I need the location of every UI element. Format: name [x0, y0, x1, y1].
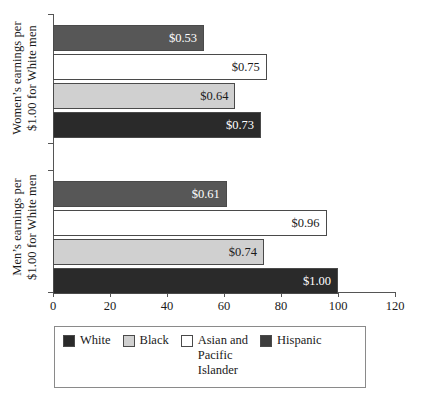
- x-axis-tick: [395, 292, 396, 297]
- bar-value-label: $0.53: [169, 32, 197, 45]
- y-axis-label-women: Women’s earnings per $1.00 for White men: [10, 10, 40, 146]
- y-axis-label-women-line2: $1.00 for White men: [25, 10, 40, 146]
- legend-item-hispanic[interactable]: Hispanic: [260, 333, 321, 348]
- bar-value-label: $0.61: [192, 188, 220, 201]
- x-axis-tick-label: 40: [147, 299, 187, 314]
- x-axis-tick-label: 0: [33, 299, 73, 314]
- x-axis-tick-label: 60: [204, 299, 244, 314]
- legend-item-asian-pacific-islander[interactable]: Asian and Pacific Islander: [181, 333, 248, 378]
- legend-swatch-black-icon: [123, 335, 135, 347]
- y-axis-label-men-line1: Men’s earnings per: [10, 164, 25, 290]
- bar-value-label: $0.64: [200, 90, 228, 103]
- bar-men-hispanic[interactable]: $0.61: [53, 181, 227, 207]
- x-axis-tick-label: 20: [90, 299, 130, 314]
- category-axis-tick: [48, 170, 53, 171]
- x-axis-tick-label: 80: [261, 299, 301, 314]
- bar-women-black[interactable]: $0.64: [53, 83, 235, 109]
- legend-label-hispanic: Hispanic: [277, 333, 321, 348]
- bar-value-label: $0.73: [226, 119, 254, 132]
- y-axis-label-men: Men’s earnings per $1.00 for White men: [10, 164, 40, 290]
- bar-men-white[interactable]: $1.00: [53, 268, 338, 294]
- bar-value-label: $1.00: [303, 275, 331, 288]
- legend-swatch-asian-pacific-islander-icon: [181, 335, 193, 347]
- bar-women-hispanic[interactable]: $0.53: [53, 25, 204, 51]
- chart-legend: White Black Asian and Pacific Islander H…: [54, 326, 366, 388]
- x-axis-tick-label: 120: [375, 299, 415, 314]
- bar-chart: Women’s earnings per $1.00 for White men…: [0, 0, 422, 399]
- bar-women-asian-pacific-islander[interactable]: $0.75: [53, 54, 267, 80]
- legend-swatch-white-icon: [63, 335, 75, 347]
- bar-men-black[interactable]: $0.74: [53, 239, 264, 265]
- bar-value-label: $0.75: [232, 61, 260, 74]
- legend-label-white: White: [80, 333, 111, 348]
- legend-swatch-hispanic-icon: [260, 335, 272, 347]
- x-axis-tick-label: 100: [318, 299, 358, 314]
- y-axis-label-women-line1: Women’s earnings per: [10, 10, 25, 146]
- legend-label-black: Black: [140, 333, 169, 348]
- category-axis-tick: [48, 143, 53, 144]
- legend-item-white[interactable]: White: [63, 333, 111, 348]
- x-axis-tick: [338, 292, 339, 297]
- bar-value-label: $0.74: [229, 246, 257, 259]
- legend-label-asian-pacific-islander: Asian and Pacific Islander: [198, 333, 248, 378]
- bar-men-asian-pacific-islander[interactable]: $0.96: [53, 210, 327, 236]
- bar-women-white[interactable]: $0.73: [53, 112, 261, 138]
- bar-value-label: $0.96: [291, 217, 319, 230]
- category-axis-tick: [48, 14, 53, 15]
- y-axis-label-men-line2: $1.00 for White men: [25, 164, 40, 290]
- legend-item-black[interactable]: Black: [123, 333, 169, 348]
